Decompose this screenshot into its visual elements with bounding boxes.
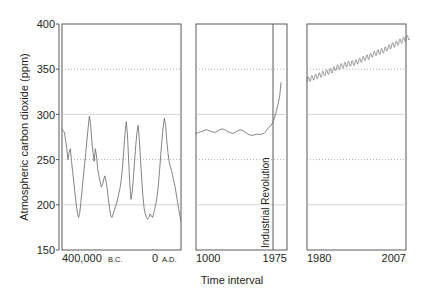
industrial-revolution-label: Industrial Revolution (260, 157, 271, 248)
panel3-gridlines (307, 69, 406, 205)
panel1-xtick-right-era: A.D. (162, 255, 177, 264)
panel3-xtick-right: 2007 (382, 252, 406, 264)
y-tick-200: 200 (37, 199, 55, 211)
y-tick-300: 300 (37, 109, 55, 121)
panel-last-millennium: Industrial Revolution 1000 1975 (196, 24, 287, 264)
y-tick-400: 400 (37, 18, 55, 30)
panel2-xtick-left: 1000 (196, 252, 220, 264)
co2-broken-axis-chart: 400 350 300 250 200 150 Atmospheric carb… (0, 0, 425, 304)
panel3-x-tick-labels: 1980 2007 (307, 252, 406, 264)
chart-figure: 400 350 300 250 200 150 Atmospheric carb… (0, 0, 425, 304)
x-axis-title: Time interval (201, 274, 264, 286)
panel1-frame (62, 24, 181, 250)
panel1-xtick-left-era: B.C. (108, 255, 123, 264)
panel-modern-keeling-curve: 1980 2007 (307, 24, 409, 264)
panel1-gridlines (62, 69, 181, 205)
panel1-xtick-right: 0 (152, 252, 158, 264)
y-axis-tick-labels: 400 350 300 250 200 150 (37, 18, 55, 256)
y-tick-250: 250 (37, 154, 55, 166)
panel3-xtick-left: 1980 (307, 252, 331, 264)
panel2-xtick-right: 1975 (263, 252, 287, 264)
panel3-frame (307, 24, 406, 250)
panel2-x-tick-labels: 1000 1975 (196, 252, 287, 264)
panel3-data-line (307, 35, 409, 81)
y-tick-350: 350 (37, 63, 55, 75)
panel-ice-core-record: 400,000 B.C. 0 A.D. (62, 24, 181, 264)
y-axis-title: Atmospheric carbon dioxide (ppm) (18, 53, 30, 221)
panel1-xtick-left: 400,000 (62, 252, 102, 264)
panel1-data-line (62, 116, 181, 221)
y-tick-150: 150 (37, 244, 55, 256)
panel1-x-tick-labels: 400,000 B.C. 0 A.D. (62, 252, 177, 264)
panel2-data-line (196, 83, 281, 135)
